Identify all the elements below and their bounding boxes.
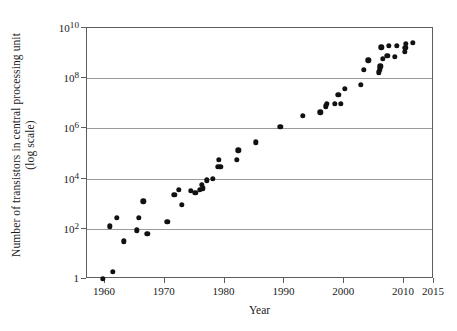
data-point — [385, 53, 390, 58]
data-point — [141, 199, 146, 204]
x-tick-mark — [403, 278, 404, 283]
x-tick-label: 2015 — [422, 285, 444, 297]
data-point — [110, 269, 115, 274]
data-point — [336, 92, 341, 97]
gridline — [87, 179, 432, 180]
data-point — [218, 164, 223, 169]
y-axis-title-line1: Number of transistors in central process… — [10, 33, 22, 257]
plot-area — [86, 27, 433, 278]
data-point — [386, 43, 391, 48]
data-point — [210, 176, 215, 181]
y-tick-label: 1010 — [40, 20, 79, 35]
data-point — [332, 101, 337, 106]
data-point — [176, 187, 181, 192]
data-point — [342, 86, 347, 91]
y-tick-label: 102 — [40, 220, 79, 235]
data-point — [379, 45, 384, 50]
y-tick-mark — [81, 278, 86, 279]
data-point — [358, 82, 363, 87]
x-tick-label: 1970 — [153, 285, 175, 297]
data-point — [172, 192, 177, 197]
y-axis-title-line2: (log scale) — [23, 33, 37, 257]
gridline — [87, 128, 432, 129]
x-tick-mark — [164, 278, 165, 283]
x-tick-mark — [283, 278, 284, 283]
data-point — [145, 231, 150, 236]
data-point — [403, 41, 408, 46]
data-point — [300, 113, 305, 118]
x-tick-label: 2010 — [392, 285, 414, 297]
y-tick-label: 108 — [40, 70, 79, 85]
y-tick-label: 104 — [40, 170, 79, 185]
data-point — [377, 64, 382, 69]
data-point — [216, 157, 221, 162]
data-point — [318, 110, 323, 115]
data-point — [200, 186, 205, 191]
data-point — [234, 157, 239, 162]
data-point — [136, 215, 141, 220]
data-point — [236, 148, 241, 153]
y-tick-label: 106 — [40, 120, 79, 135]
data-point — [204, 178, 209, 183]
data-point — [164, 219, 169, 224]
data-point — [121, 239, 126, 244]
data-point — [394, 43, 399, 48]
transistor-count-scatter-chart: Number of transistors in central process… — [0, 0, 457, 331]
data-point — [179, 202, 184, 207]
x-tick-mark — [433, 278, 434, 283]
data-point — [338, 101, 343, 106]
data-point — [114, 215, 119, 220]
x-tick-label: 1960 — [93, 285, 115, 297]
x-tick-mark — [224, 278, 225, 283]
data-point — [324, 101, 329, 106]
gridline — [87, 78, 432, 79]
x-tick-label: 2000 — [332, 285, 354, 297]
x-axis-title: Year — [86, 304, 433, 316]
data-point — [253, 140, 258, 145]
data-point — [365, 58, 370, 63]
x-tick-mark — [343, 278, 344, 283]
data-point — [134, 227, 139, 232]
y-axis-title: Number of transistors in central process… — [0, 0, 46, 290]
data-point — [392, 54, 397, 59]
data-point — [410, 40, 415, 45]
x-tick-label: 1980 — [213, 285, 235, 297]
data-point — [361, 67, 366, 72]
x-tick-label: 1990 — [272, 285, 294, 297]
y-tick-label: 1 — [40, 272, 79, 284]
